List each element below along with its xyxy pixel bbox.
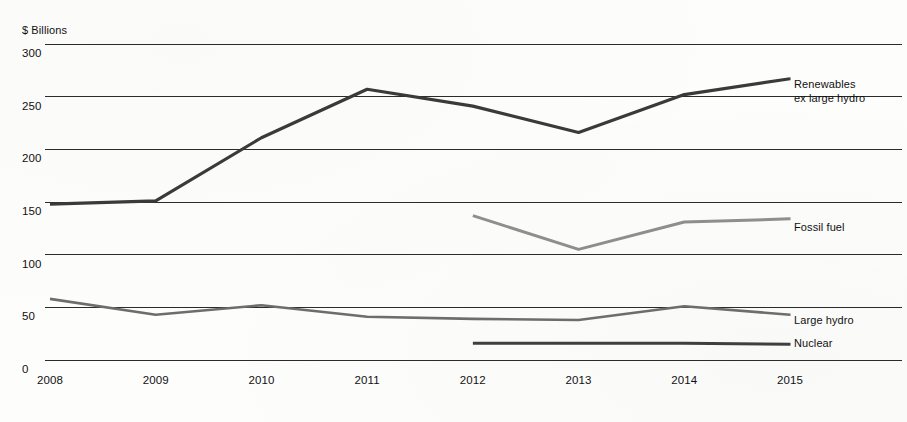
x-tick-label: 2014 bbox=[671, 374, 697, 386]
series-line bbox=[50, 299, 790, 320]
chart-container: $ Billions 050100150200250300 2008200920… bbox=[0, 0, 907, 422]
y-tick-label: 300 bbox=[22, 47, 42, 59]
x-tick-label: 2012 bbox=[460, 374, 486, 386]
series-label-renewables: Renewablesex large hydro bbox=[794, 78, 865, 105]
series-label-large-hydro: Large hydro bbox=[794, 314, 854, 328]
series-line bbox=[473, 216, 790, 250]
x-tick-label: 2015 bbox=[777, 374, 803, 386]
plot-area bbox=[0, 0, 907, 422]
series-label-renewables-line2: ex large hydro bbox=[794, 92, 865, 104]
series-line-group bbox=[50, 79, 791, 344]
y-tick-label: 150 bbox=[22, 205, 42, 217]
y-tick-label: 0 bbox=[22, 363, 29, 375]
x-tick-label: 2008 bbox=[37, 374, 63, 386]
series-label-renewables-line1: Renewables bbox=[794, 78, 856, 90]
series-line bbox=[473, 343, 790, 344]
y-tick-label: 100 bbox=[22, 258, 42, 270]
series-label-nuclear: Nuclear bbox=[794, 337, 833, 351]
series-label-fossil-fuel: Fossil fuel bbox=[794, 221, 845, 235]
series-line bbox=[50, 79, 790, 204]
x-tick-label: 2011 bbox=[355, 374, 380, 386]
x-tick-label: 2009 bbox=[143, 374, 169, 386]
y-tick-label: 50 bbox=[22, 310, 35, 322]
y-tick-label: 250 bbox=[22, 100, 42, 112]
x-tick-label: 2013 bbox=[566, 374, 592, 386]
x-tick-label: 2010 bbox=[248, 374, 274, 386]
y-tick-label: 200 bbox=[22, 152, 42, 164]
